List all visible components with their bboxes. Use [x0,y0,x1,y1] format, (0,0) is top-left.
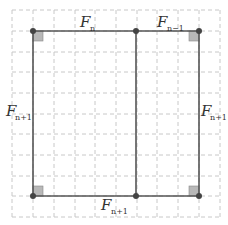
label-bottom: F n+1 [100,196,128,216]
svg-text:n+1: n+1 [15,113,32,122]
fibonacci-diagram: F n F n−1 F n+1 F n+1 F n+1 [0,0,228,225]
point-BR[interactable] [196,193,202,199]
point-BL[interactable] [30,193,36,199]
point-TL[interactable] [30,28,36,34]
svg-text:n+1: n+1 [111,207,128,216]
label-top-right: F n−1 [156,13,184,33]
point-TM[interactable] [133,28,139,34]
point-BM[interactable] [133,193,139,199]
label-right: F n+1 [200,102,227,122]
svg-text:n−1: n−1 [167,24,184,33]
svg-text:n+1: n+1 [210,113,227,122]
label-left: F n+1 [5,102,32,122]
point-TR[interactable] [196,28,202,34]
label-top-left: F n [79,13,95,33]
svg-text:n: n [90,24,95,33]
